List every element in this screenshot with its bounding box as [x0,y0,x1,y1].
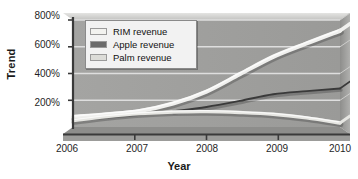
legend-label-apple: Apple revenue [113,38,174,51]
legend-item-palm[interactable]: Palm revenue [90,51,191,64]
chart-legend[interactable]: RIM revenue Apple revenue Palm revenue [85,20,197,69]
legend-label-palm: Palm revenue [113,51,172,64]
legend-swatch-palm [90,54,107,61]
y-axis-line [68,17,73,129]
legend-item-apple[interactable]: Apple revenue [90,38,191,51]
x-tick-label: 2009 [257,143,297,154]
chart-root: Trend 800% 600% 400% 200% 2006 2007 2008… [0,0,358,179]
legend-swatch-rim [90,28,107,35]
x-tick-label: 2010 [320,143,358,154]
x-axis-title: Year [0,160,358,172]
y-tick-label: 400% [16,68,60,79]
legend-label-rim: RIM revenue [113,25,167,38]
y-tick-label: 600% [16,39,60,50]
x-tick-label: 2007 [117,143,157,154]
chart-floor [63,127,350,134]
y-tick-label: 800% [16,10,60,21]
x-tick-label: 2006 [47,143,87,154]
chart-top-face [63,13,350,20]
y-tick-label: 200% [16,97,60,108]
legend-item-rim[interactable]: RIM revenue [90,25,191,38]
x-tick-label: 2008 [187,143,227,154]
legend-swatch-apple [90,41,107,48]
plot-area: RIM revenue Apple revenue Palm revenue [63,13,350,141]
